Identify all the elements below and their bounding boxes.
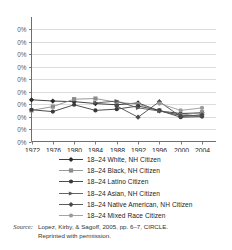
data-point-marker xyxy=(93,108,97,112)
legend-item-label: 18–24 Latino Citizen xyxy=(84,176,148,187)
data-point-marker xyxy=(50,98,55,103)
x-axis-labels-group: 197219761980198419881992199620002004 xyxy=(25,147,210,152)
data-point-marker xyxy=(51,105,55,109)
data-point-marker xyxy=(69,169,73,173)
legend-item[interactable]: 18–24 Black, NH Citizen xyxy=(0,165,232,176)
legend-marker-circle-icon xyxy=(58,210,84,221)
data-point-marker xyxy=(29,97,34,102)
x-axis-tick-label: 1980 xyxy=(67,147,82,152)
source-note: Source: Lopez, Kirby, & Sagoff, 2005, pp… xyxy=(0,222,232,240)
legend-item[interactable]: 18–24 White, NH Citizen xyxy=(0,154,232,165)
data-point-marker xyxy=(72,97,76,101)
y-axis-tick-label: 0% xyxy=(17,139,27,146)
data-point-marker xyxy=(68,202,73,207)
chart-plot-area: 0%0%0%0%0%0%0%0%0%0% 1972197619801984198… xyxy=(0,0,232,152)
data-point-marker xyxy=(69,180,73,184)
x-axis-tick-label: 2000 xyxy=(174,147,189,152)
y-axis-tick-label: 0% xyxy=(17,126,27,133)
legend-item-label: 18–24 Mixed Race Citizen xyxy=(84,210,166,221)
x-axis-tick-label: 1984 xyxy=(88,147,103,152)
y-axis-tick-label: 0% xyxy=(17,39,27,46)
chart-legend: 18–24 White, NH Citizen18–24 Black, NH C… xyxy=(0,154,232,221)
data-point-marker xyxy=(69,191,74,195)
data-point-marker xyxy=(179,108,183,112)
data-point-marker xyxy=(200,106,204,110)
legend-item-label: 18–24 White, NH Citizen xyxy=(84,154,161,165)
legend-marker-circle-icon xyxy=(58,176,84,187)
y-axis-tick-label: 0% xyxy=(17,101,27,108)
y-axis-tick-label: 0% xyxy=(17,64,27,71)
y-axis-tick-label: 0% xyxy=(17,51,27,58)
data-point-marker xyxy=(72,103,76,107)
data-point-marker xyxy=(29,108,33,112)
legend-item[interactable]: 18–24 Mixed Race Citizen xyxy=(0,210,232,221)
legend-item-label: 18–24 Black, NH Citizen xyxy=(84,165,160,176)
legend-item[interactable]: 18–24 Native American, NH Citizen xyxy=(0,199,232,210)
data-point-marker xyxy=(93,96,97,100)
legend-item-label: 18–24 Asian, NH Citizen xyxy=(84,188,160,199)
x-axis-tick-label: 1996 xyxy=(152,147,167,152)
x-axis-tick-label: 2004 xyxy=(195,147,210,152)
source-line-1: Lopez, Kirby, & Sagoff, 2005, pp. 6–7, C… xyxy=(38,222,168,231)
line-chart-svg: 0%0%0%0%0%0%0%0%0%0% 1972197619801984198… xyxy=(0,0,232,152)
x-axis-tick-label: 1976 xyxy=(46,147,61,152)
legend-marker-diamond-icon xyxy=(58,199,84,210)
figure-container: 0%0%0%0%0%0%0%0%0%0% 1972197619801984198… xyxy=(0,0,232,250)
legend-marker-square-icon xyxy=(58,165,84,176)
data-point-marker xyxy=(68,157,73,162)
legend-marker-triangle-icon xyxy=(58,188,84,199)
x-axis-tick-label: 1992 xyxy=(131,147,146,152)
x-axis-tick-label: 1988 xyxy=(110,147,125,152)
legend-item[interactable]: 18–24 Asian, NH Citizen xyxy=(0,188,232,199)
source-text: Lopez, Kirby, & Sagoff, 2005, pp. 6–7, C… xyxy=(33,222,168,240)
legend-item-label: 18–24 Native American, NH Citizen xyxy=(84,199,193,210)
legend-item[interactable]: 18–24 Latino Citizen xyxy=(0,176,232,187)
y-axis-labels-group: 0%0%0%0%0%0%0%0%0%0% xyxy=(17,26,27,146)
x-axis-tick-label: 1972 xyxy=(25,147,40,152)
y-axis-tick-label: 0% xyxy=(17,114,27,121)
y-axis-tick-label: 0% xyxy=(17,76,27,83)
data-point-marker xyxy=(157,101,161,105)
source-line-2: Reprinted with permission. xyxy=(38,231,168,240)
y-axis-tick-label: 0% xyxy=(17,89,27,96)
source-label: Source: xyxy=(0,222,33,240)
data-point-marker xyxy=(51,110,55,114)
data-point-marker xyxy=(69,213,73,217)
y-axis-tick-label: 0% xyxy=(17,26,27,33)
legend-marker-diamond-icon xyxy=(58,154,84,165)
